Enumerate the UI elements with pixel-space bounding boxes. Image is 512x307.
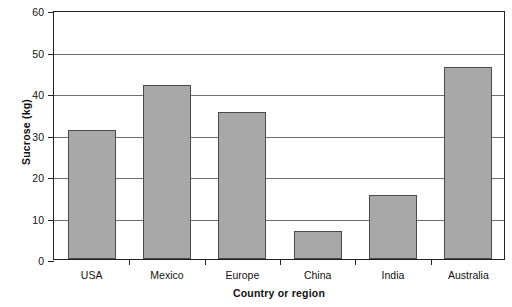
- x-axis-tick-label: Europe: [225, 269, 259, 281]
- y-axis-tick: [48, 261, 54, 262]
- x-axis-tick-label: India: [382, 269, 405, 281]
- y-axis-tick-label: 30: [32, 131, 44, 143]
- bar-usa[interactable]: [68, 130, 116, 259]
- bar-slot: [129, 12, 204, 259]
- y-axis-tick-label: 0: [38, 255, 44, 267]
- y-axis-tick-label: 60: [32, 6, 44, 18]
- x-axis-tick: [205, 259, 206, 265]
- plot-area: 0102030405060 USAMexicoEuropeChinaIndiaA…: [53, 11, 505, 260]
- y-axis-tick-label: 40: [32, 89, 44, 101]
- x-axis-tick-label: USA: [81, 269, 103, 281]
- bar-europe[interactable]: [218, 112, 266, 259]
- x-axis-tick: [355, 259, 356, 265]
- x-axis-title: Country or region: [53, 287, 505, 299]
- bar-slot: [355, 12, 430, 259]
- bar-slot: [431, 12, 506, 259]
- x-axis-tick: [431, 259, 432, 265]
- y-axis-tick-label: 50: [32, 48, 44, 60]
- bar-chart: Sucrose (kg) 0102030405060 USAMexicoEuro…: [0, 0, 512, 307]
- bar-china[interactable]: [294, 231, 342, 259]
- bar-slot: [54, 12, 129, 259]
- bars-group: [54, 12, 504, 259]
- x-axis-tick: [129, 259, 130, 265]
- x-axis-tick-label: Mexico: [150, 269, 183, 281]
- y-axis-tick-label: 20: [32, 172, 44, 184]
- y-axis-title: Sucrose (kg): [20, 62, 32, 202]
- x-axis-tick: [280, 259, 281, 265]
- x-axis-tick-label: Australia: [448, 269, 489, 281]
- bar-australia[interactable]: [444, 67, 492, 259]
- bar-india[interactable]: [369, 195, 417, 259]
- bar-slot: [280, 12, 355, 259]
- bar-slot: [205, 12, 280, 259]
- x-axis-tick-label: China: [304, 269, 331, 281]
- bar-mexico[interactable]: [143, 85, 191, 259]
- y-axis-tick-label: 10: [32, 214, 44, 226]
